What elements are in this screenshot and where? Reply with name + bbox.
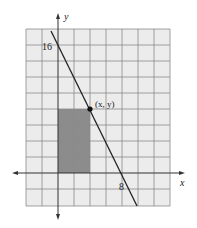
graph: y x 16 8 (x, y) (0, 0, 197, 228)
y-intercept-label: 16 (42, 41, 52, 52)
x-intercept-label: 8 (119, 181, 124, 192)
point-label: (x, y) (95, 99, 115, 109)
y-axis-down-arrow-icon (56, 214, 60, 220)
x-axis-label: x (179, 177, 185, 188)
grid-background (26, 29, 170, 206)
x-axis-left-arrow-icon (12, 171, 18, 175)
y-axis-up-arrow-icon (56, 13, 60, 19)
x-axis-right-arrow-icon (179, 171, 185, 175)
point-marker (87, 106, 92, 111)
y-axis-label: y (63, 11, 69, 22)
